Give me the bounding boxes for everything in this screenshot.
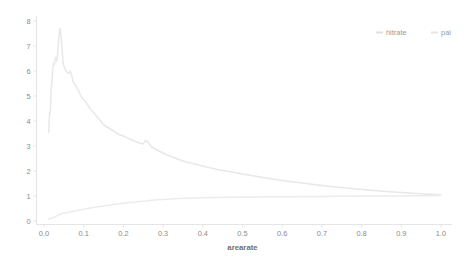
chart-legend: hitratepai — [376, 28, 451, 37]
x-tick-label: 0.7 — [317, 229, 327, 238]
legend-label-pai[interactable]: pai — [441, 28, 451, 37]
x-tick-label: 0.5 — [237, 229, 247, 238]
series-layer — [49, 29, 441, 220]
x-axis-title: arearate — [227, 243, 258, 252]
y-tick-label: 2 — [26, 167, 30, 176]
y-tick-label: 5 — [26, 92, 30, 101]
series-line-pai — [49, 196, 441, 220]
y-tick-label: 6 — [26, 67, 30, 76]
x-tick-label: 0.8 — [356, 229, 366, 238]
series-line-hitrate — [49, 29, 441, 196]
x-tick-label: 0.2 — [118, 229, 128, 238]
line-chart: 012345678 0.00.10.20.30.40.50.60.70.80.9… — [0, 0, 467, 265]
chart-container: 012345678 0.00.10.20.30.40.50.60.70.80.9… — [0, 0, 467, 265]
x-tick-label: 0.1 — [79, 229, 89, 238]
x-tick-label: 0.4 — [198, 229, 208, 238]
y-tick-label: 0 — [26, 217, 30, 226]
x-tick-label: 0.6 — [277, 229, 287, 238]
x-tick-label: 1.0 — [436, 229, 446, 238]
legend-label-hitrate[interactable]: hitrate — [386, 28, 407, 37]
y-tick-label: 3 — [26, 142, 30, 151]
x-tick-label: 0.0 — [39, 229, 49, 238]
y-tick-label: 1 — [26, 192, 30, 201]
y-tick-label: 4 — [26, 117, 30, 126]
x-axis: 0.00.10.20.30.40.50.60.70.80.91.0 — [37, 225, 453, 239]
x-tick-label: 0.3 — [158, 229, 168, 238]
y-tick-label: 7 — [26, 42, 30, 51]
y-axis: 012345678 — [26, 16, 36, 226]
x-tick-label: 0.9 — [396, 229, 406, 238]
y-tick-label: 8 — [26, 17, 30, 26]
